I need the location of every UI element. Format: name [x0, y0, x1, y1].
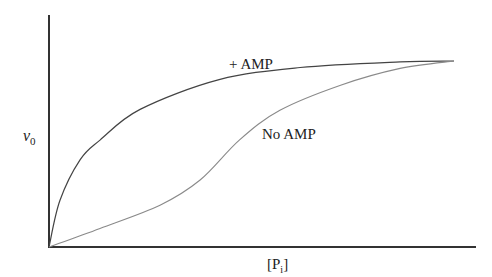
- y-axis-label-sub: 0: [30, 135, 36, 147]
- x-axis-label-close: ]: [283, 256, 288, 272]
- x-axis-label-main: [P: [267, 256, 280, 272]
- y-axis-label: v0: [23, 127, 36, 147]
- series-plus-amp-curve: [49, 61, 454, 247]
- x-axis-label: [Pi]: [267, 256, 288, 275]
- series-no-amp-curve: [49, 61, 454, 247]
- chart-canvas: [0, 0, 492, 277]
- series-label-no-amp: No AMP: [262, 126, 316, 143]
- series-label-plus-amp: + AMP: [229, 56, 273, 73]
